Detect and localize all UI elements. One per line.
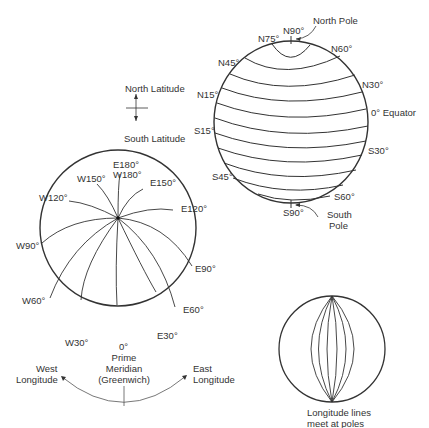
label-n75: N75° xyxy=(258,33,279,44)
prime-meridian-label-2: Meridian xyxy=(106,363,142,374)
small-globe-caption-1: Longitude lines xyxy=(307,407,371,418)
north-pole-label: North Pole xyxy=(313,15,358,26)
prime-meridian-label-3: (Greenwich) xyxy=(98,374,150,385)
label-n30: N30° xyxy=(362,79,383,90)
west-longitude-label-1: West xyxy=(36,363,58,374)
label-w150: W150° xyxy=(77,173,106,184)
label-e90: E90° xyxy=(195,263,216,274)
west-arrow-icon xyxy=(61,376,66,381)
label-e60: E60° xyxy=(183,304,204,315)
label-s30: S30° xyxy=(368,145,389,156)
label-w90: W90° xyxy=(16,240,40,251)
label-w30: W30° xyxy=(65,337,89,348)
label-e150: E150° xyxy=(150,177,176,188)
label-n45: N45° xyxy=(218,57,239,68)
south-pole-label-line2: Pole xyxy=(329,220,348,231)
south-pole-label-line1: South xyxy=(327,209,352,220)
west-longitude-label-2: Longitude xyxy=(16,374,58,385)
label-w120: W120° xyxy=(39,192,68,203)
label-w180: W180° xyxy=(113,169,142,180)
label-w60: W60° xyxy=(22,295,46,306)
small-longitude-globe xyxy=(279,296,385,402)
label-zero: 0° xyxy=(119,341,128,352)
label-equator: 0° Equator xyxy=(371,107,416,118)
down-arrow-icon xyxy=(134,116,138,121)
label-s45: S45° xyxy=(212,171,233,182)
small-globe-caption-2: meet at poles xyxy=(307,418,364,428)
small-globe-outline xyxy=(279,296,385,402)
label-n15: N15° xyxy=(197,89,218,100)
latitude-legend xyxy=(126,94,148,121)
latitude-globe xyxy=(214,26,368,217)
label-e30: E30° xyxy=(157,330,178,341)
label-s60: S60° xyxy=(334,191,355,202)
label-s90: S90° xyxy=(283,207,304,218)
east-longitude-label-1: East xyxy=(193,363,212,374)
prime-meridian-label-1: Prime xyxy=(112,352,137,363)
north-latitude-label: North Latitude xyxy=(125,83,185,94)
label-s15: S15° xyxy=(194,125,215,136)
globe-diagram: North Pole N90° N75° N60° N45° N30° N15°… xyxy=(0,0,429,428)
north-pole-dot xyxy=(116,216,120,220)
label-n60: N60° xyxy=(331,43,352,54)
label-n90: N90° xyxy=(283,25,304,36)
east-longitude-label-2: Longitude xyxy=(193,374,235,385)
label-e120: E120° xyxy=(181,203,207,214)
east-arrow-icon xyxy=(182,375,187,380)
up-arrow-icon xyxy=(134,94,138,99)
south-latitude-label: South Latitude xyxy=(124,133,185,144)
